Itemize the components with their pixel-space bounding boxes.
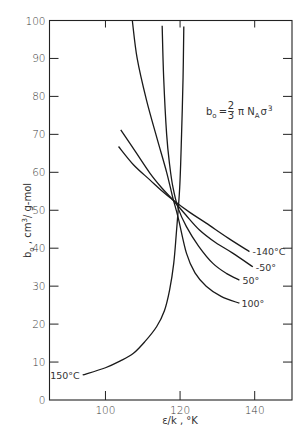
y-tick-label: 80	[32, 90, 45, 102]
y-tick-label: 60	[32, 166, 45, 178]
x-tick-label: 100	[95, 404, 115, 416]
series-label-150C: 150°C	[50, 370, 80, 381]
series-curve-minus-140C	[119, 146, 250, 251]
y-tick-label: 20	[32, 318, 45, 330]
y-tick-label: 0	[39, 394, 46, 406]
series-curve-minus-50C	[121, 130, 253, 267]
formula-frac-denominator: 3	[228, 110, 234, 121]
axis-ticks	[50, 21, 293, 401]
data-series	[83, 21, 253, 375]
plot-frame	[50, 21, 293, 401]
y-tick-label: 100	[25, 15, 45, 27]
x-axis-title: ε/k , °K	[162, 415, 198, 426]
plot-border	[50, 21, 293, 401]
y-tick-label: 30	[32, 280, 45, 292]
y-tick-label: 90	[32, 52, 45, 64]
formula-rhs: π NAσ3	[238, 104, 273, 120]
series-label-100C: 100°	[241, 298, 264, 309]
series-label-minus-140C: -140°C	[252, 246, 285, 257]
series-curve-150C	[83, 27, 184, 375]
series-curve-50C	[162, 26, 239, 280]
series-label-50C: 50°	[242, 275, 259, 286]
formula-lhs: bo=	[206, 106, 227, 120]
formula-annotation: bo= 2 3 π NAσ3	[206, 100, 273, 121]
series-label-minus-50C: -50°	[256, 262, 276, 273]
chart: 0102030405060708090100 100120140 -140°C-…	[0, 0, 307, 439]
y-tick-label: 10	[32, 356, 45, 368]
x-tick-label: 140	[245, 404, 265, 416]
y-tick-label: 50	[32, 204, 45, 216]
series-curve-100C	[132, 21, 239, 304]
y-tick-label: 70	[32, 128, 45, 140]
